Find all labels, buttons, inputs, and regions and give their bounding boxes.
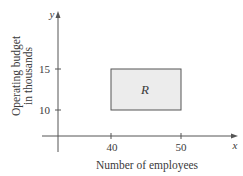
y-axis-label-line2: in thousands bbox=[22, 47, 34, 105]
y-axis-arrow-icon bbox=[56, 11, 61, 18]
x-tick-label-40: 40 bbox=[107, 141, 119, 153]
region-diagram: R y x 15 10 40 50 Number of employees Op… bbox=[0, 0, 243, 176]
region-label: R bbox=[140, 82, 149, 97]
x-axis-label: Number of employees bbox=[96, 159, 199, 172]
y-tick-label-15: 15 bbox=[39, 63, 51, 75]
y-tick-label-10: 10 bbox=[39, 104, 51, 116]
x-axis-letter: x bbox=[232, 139, 238, 151]
x-axis-arrow-icon bbox=[231, 134, 238, 139]
x-tick-label-50: 50 bbox=[176, 141, 188, 153]
y-axis-letter: y bbox=[49, 8, 55, 20]
